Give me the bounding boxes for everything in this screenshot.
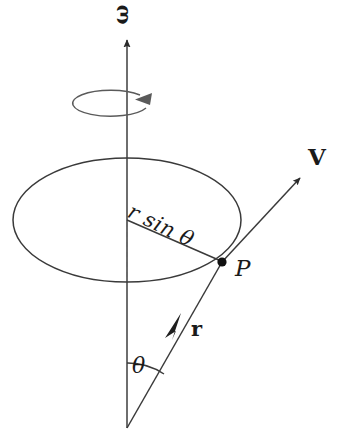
label-radius-r: r: [191, 318, 202, 339]
label-angle-theta: θ: [132, 355, 145, 377]
physics-diagram-rotating-body: ω r sin θ P V r θ: [0, 0, 350, 444]
position-vector-r: [127, 262, 222, 428]
position-vector-arrowhead: [165, 313, 181, 340]
point-marker-P: [217, 257, 226, 266]
velocity-vector-V: [222, 178, 300, 262]
label-velocity-v: V: [308, 145, 326, 168]
rotation-indicator-ellipse: [73, 90, 146, 116]
label-point-p: P: [235, 257, 250, 280]
label-omega: ω: [110, 5, 131, 25]
